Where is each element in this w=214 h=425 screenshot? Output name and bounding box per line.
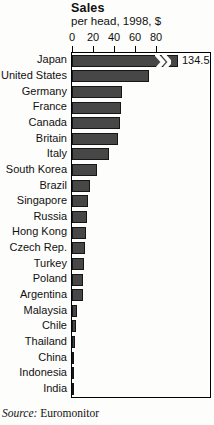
category-label-argentina: Argentina <box>0 288 67 301</box>
plot-area: 134.5 <box>71 52 211 398</box>
bar-russia <box>72 211 87 223</box>
category-label-singapore: Singapore <box>0 194 67 207</box>
category-label-japan: Japan <box>0 53 67 66</box>
axis-break-icon <box>155 55 171 69</box>
bar-india <box>72 383 74 395</box>
source-prefix: Source: <box>2 407 37 419</box>
category-label-britain: Britain <box>0 132 67 145</box>
category-label-indonesia: Indonesia <box>0 366 67 379</box>
source-text: Euromonitor <box>40 407 99 419</box>
bar-czech-rep <box>72 242 85 254</box>
chart-title: Sales <box>71 1 105 15</box>
bar-malaysia <box>72 305 77 317</box>
bar-japan <box>72 55 178 67</box>
category-label-thailand: Thailand <box>0 335 67 348</box>
category-label-poland: Poland <box>0 272 67 285</box>
category-label-south-korea: South Korea <box>0 163 67 176</box>
category-label-united-states: United States <box>0 69 67 82</box>
bar-south-korea <box>72 164 97 176</box>
bar-argentina <box>72 289 83 301</box>
category-label-italy: Italy <box>0 147 67 160</box>
category-label-china: China <box>0 351 67 364</box>
bar-chile <box>72 320 76 332</box>
category-label-malaysia: Malaysia <box>0 304 67 317</box>
bar-germany <box>72 86 122 98</box>
category-label-france: France <box>0 100 67 113</box>
category-label-czech-rep: Czech Rep. <box>0 241 67 254</box>
category-label-turkey: Turkey <box>0 257 67 270</box>
bar-britain <box>72 133 118 145</box>
category-label-india: India <box>0 382 67 395</box>
category-label-russia: Russia <box>0 210 67 223</box>
category-label-chile: Chile <box>0 319 67 332</box>
bar-singapore <box>72 195 88 207</box>
bar-brazil <box>72 180 90 192</box>
category-label-canada: Canada <box>0 116 67 129</box>
bar-turkey <box>72 258 84 270</box>
source-note: Source: Euromonitor <box>2 407 99 419</box>
bar-indonesia <box>72 367 74 379</box>
bar-hong-kong <box>72 227 86 239</box>
bar-thailand <box>72 336 75 348</box>
bar-italy <box>72 148 109 160</box>
category-label-hong-kong: Hong Kong <box>0 225 67 238</box>
category-label-brazil: Brazil <box>0 179 67 192</box>
bar-poland <box>72 274 83 286</box>
chart-subtitle: per head, 1998, $ <box>71 15 161 27</box>
bar-canada <box>72 117 120 129</box>
chart-panel: Sales per head, 1998, $ 020406080 JapanU… <box>0 0 214 425</box>
value-label-japan: 134.5 <box>182 54 210 66</box>
x-axis-tick-label-80: 80 <box>141 31 171 43</box>
category-label-germany: Germany <box>0 85 67 98</box>
bar-france <box>72 102 121 114</box>
bar-china <box>72 352 74 364</box>
bar-united-states <box>72 70 149 82</box>
